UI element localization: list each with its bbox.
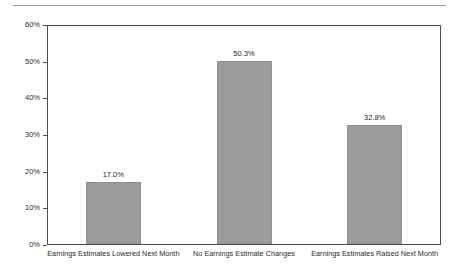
- bars-layer: 17.0%50.3%32.8%: [48, 26, 440, 244]
- y-axis-tick-label: 60%: [0, 21, 40, 29]
- bar-value-label: 50.3%: [197, 49, 292, 58]
- y-axis-tick-mark: [43, 98, 47, 99]
- y-axis-tick-mark: [43, 245, 47, 246]
- bar-value-label: 17.0%: [66, 170, 161, 179]
- top-horizontal-rule: [13, 5, 446, 6]
- bar[interactable]: [217, 61, 272, 244]
- y-axis-tick-mark: [43, 25, 47, 26]
- y-axis-tick-mark: [43, 208, 47, 209]
- y-axis-tick-label: 30%: [0, 131, 40, 139]
- bar[interactable]: [86, 182, 141, 244]
- y-axis-tick-mark: [43, 172, 47, 173]
- bar[interactable]: [347, 125, 402, 244]
- y-axis-tick-label: 50%: [0, 58, 40, 66]
- category-label: Earnings Estimates Lowered Next Month: [38, 249, 188, 258]
- y-axis-tick-label: 10%: [0, 204, 40, 212]
- y-axis-tick-label: 0%: [0, 241, 40, 249]
- bar-value-label: 32.8%: [327, 113, 422, 122]
- category-label: No Earnings Estimate Changes: [169, 249, 319, 258]
- y-axis-tick-label: 20%: [0, 168, 40, 176]
- category-label: Earnings Estimates Raised Next Month: [300, 249, 450, 258]
- y-axis-tick-mark: [43, 62, 47, 63]
- y-axis-tick-label: 40%: [0, 94, 40, 102]
- y-axis-tick-mark: [43, 135, 47, 136]
- bar-chart-figure: 0%10%20%30%40%50%60% 17.0%50.3%32.8% Ear…: [0, 0, 459, 277]
